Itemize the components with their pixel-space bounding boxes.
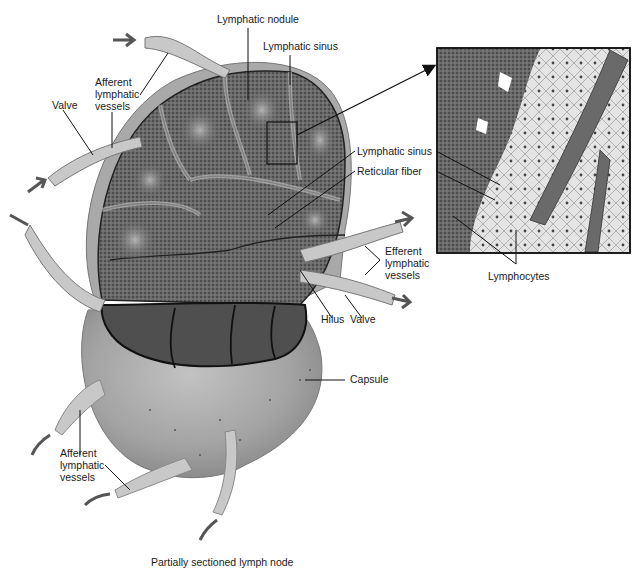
label-valve-bottom: Valve [350,313,376,325]
label-valve-left: Valve [52,99,78,111]
label-afferent-vessels-top: Afferent lymphatic vessels [95,76,139,112]
label-afferent-vessels-bottom: Afferent lymphatic vessels [60,447,104,483]
label-hilus: Hilus [321,313,344,325]
magnified-inset [437,48,630,253]
label-lymphatic-sinus-top: Lymphatic sinus [263,40,338,52]
label-lymphocytes: Lymphocytes [488,270,549,282]
figure-caption: Partially sectioned lymph node [151,556,293,568]
afferent-vessel-top [145,36,230,78]
label-capsule: Capsule [350,373,389,385]
label-efferent-vessels: Efferent lymphatic vessels [385,245,429,281]
label-reticular-fiber: Reticular fiber [357,165,422,177]
label-lymphatic-sinus-mid: Lymphatic sinus [357,145,432,157]
label-lymphatic-nodule: Lymphatic nodule [217,13,299,25]
